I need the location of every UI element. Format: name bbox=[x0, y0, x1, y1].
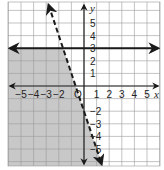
y-tick-label: 3 bbox=[90, 43, 96, 54]
x-tick-label: 3 bbox=[119, 89, 125, 100]
x-tick-label: 2 bbox=[106, 89, 112, 100]
origin-label: O bbox=[74, 89, 82, 100]
y-tick-label: −4 bbox=[90, 131, 102, 142]
shaded-region-fill bbox=[8, 48, 102, 166]
x-tick-label: −2 bbox=[53, 89, 65, 100]
y-tick-label: 5 bbox=[90, 18, 96, 29]
y-tick-label: −3 bbox=[90, 119, 102, 130]
y-tick-label: 2 bbox=[90, 56, 96, 67]
x-tick-label: 4 bbox=[132, 89, 138, 100]
x-tick-label: −3 bbox=[40, 89, 52, 100]
x-axis-label: x bbox=[153, 88, 159, 100]
x-tick-label: −5 bbox=[15, 89, 27, 100]
x-tick-label: 5 bbox=[144, 89, 150, 100]
x-tick-label: −4 bbox=[28, 89, 40, 100]
coordinate-plane: −5−4−3−21234554321−2−3−4−5Oxy bbox=[0, 0, 164, 170]
y-tick-label: 1 bbox=[90, 68, 96, 79]
y-tick-label: −2 bbox=[90, 106, 102, 117]
y-tick-label: 4 bbox=[90, 31, 96, 42]
shaded-region bbox=[8, 48, 102, 166]
y-tick-label: −5 bbox=[90, 144, 102, 155]
x-tick-label: 1 bbox=[94, 89, 100, 100]
y-axis-label: y bbox=[89, 2, 95, 14]
